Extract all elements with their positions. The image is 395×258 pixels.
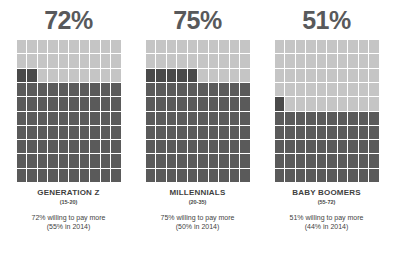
waffle-cell bbox=[219, 40, 229, 53]
waffle-cell bbox=[27, 69, 37, 82]
waffle-cell bbox=[275, 154, 285, 167]
waffle-chart-millennials bbox=[146, 40, 250, 182]
waffle-cell bbox=[146, 54, 156, 67]
waffle-cell bbox=[327, 54, 337, 67]
waffle-cell bbox=[348, 140, 358, 153]
waffle-cell bbox=[27, 97, 37, 110]
waffle-cell bbox=[275, 169, 285, 182]
waffle-cell bbox=[80, 83, 90, 96]
waffle-cell bbox=[327, 97, 337, 110]
waffle-cell bbox=[317, 112, 327, 125]
waffle-cell bbox=[146, 97, 156, 110]
waffle-cell bbox=[296, 169, 306, 182]
waffle-cell bbox=[167, 126, 177, 139]
waffle-cell bbox=[38, 97, 48, 110]
waffle-cell bbox=[177, 83, 187, 96]
waffle-cell bbox=[59, 126, 69, 139]
waffle-cell bbox=[156, 140, 166, 153]
waffle-cell bbox=[69, 112, 79, 125]
waffle-cell bbox=[59, 140, 69, 153]
waffle-cell bbox=[327, 126, 337, 139]
waffle-cell bbox=[359, 140, 369, 153]
waffle-cell bbox=[146, 83, 156, 96]
waffle-cell bbox=[209, 154, 219, 167]
waffle-cell bbox=[369, 112, 379, 125]
waffle-cell bbox=[285, 154, 295, 167]
waffle-cell bbox=[369, 169, 379, 182]
waffle-cell bbox=[17, 40, 27, 53]
waffle-cell bbox=[59, 54, 69, 67]
waffle-cell bbox=[240, 154, 250, 167]
waffle-cell bbox=[306, 140, 316, 153]
waffle-cell bbox=[306, 40, 316, 53]
waffle-cell bbox=[198, 154, 208, 167]
waffle-cell bbox=[348, 83, 358, 96]
waffle-cell bbox=[90, 54, 100, 67]
waffle-cell bbox=[359, 154, 369, 167]
waffle-cell bbox=[48, 169, 58, 182]
waffle-cell bbox=[369, 97, 379, 110]
waffle-cell bbox=[101, 69, 111, 82]
waffle-cell bbox=[230, 112, 240, 125]
waffle-cell bbox=[48, 40, 58, 53]
waffle-cell bbox=[48, 154, 58, 167]
labels-millennials: MILLENNIALS (20-35) 75% willing to pay m… bbox=[133, 189, 262, 232]
waffle-cell bbox=[59, 169, 69, 182]
waffle-chart-generation-z bbox=[17, 40, 121, 182]
waffle-cell bbox=[146, 154, 156, 167]
waffle-cell bbox=[327, 140, 337, 153]
waffle-cell bbox=[167, 169, 177, 182]
waffle-cell bbox=[306, 112, 316, 125]
waffle-cell bbox=[80, 54, 90, 67]
waffle-cell bbox=[209, 126, 219, 139]
stat-main-baby-boomers: 51% willing to pay more bbox=[262, 213, 391, 222]
waffle-cell bbox=[17, 154, 27, 167]
waffle-cell bbox=[101, 97, 111, 110]
waffle-cell bbox=[17, 169, 27, 182]
waffle-cell bbox=[306, 169, 316, 182]
waffle-cell bbox=[146, 169, 156, 182]
waffle-cell bbox=[296, 154, 306, 167]
waffle-cell bbox=[111, 83, 121, 96]
waffle-cell bbox=[230, 54, 240, 67]
panel-generation-z: 72% GENERATION Z (15-20) 72% willing to … bbox=[4, 0, 133, 232]
waffle-cell bbox=[90, 83, 100, 96]
waffle-cell bbox=[338, 40, 348, 53]
waffle-cell bbox=[219, 54, 229, 67]
waffle-cell bbox=[90, 97, 100, 110]
waffle-cell bbox=[230, 169, 240, 182]
waffle-cell bbox=[338, 97, 348, 110]
waffle-cell bbox=[101, 140, 111, 153]
waffle-chart-baby-boomers bbox=[275, 40, 379, 182]
waffle-cell bbox=[38, 69, 48, 82]
waffle-cell bbox=[317, 126, 327, 139]
waffle-cell bbox=[285, 40, 295, 53]
waffle-cell bbox=[359, 83, 369, 96]
waffle-cell bbox=[317, 69, 327, 82]
waffle-cell bbox=[338, 140, 348, 153]
stat-prior-baby-boomers: (44% in 2014) bbox=[262, 222, 391, 231]
waffle-cell bbox=[348, 97, 358, 110]
age-range-generation-z: (15-20) bbox=[4, 199, 133, 206]
waffle-cell bbox=[167, 54, 177, 67]
waffle-cell bbox=[80, 140, 90, 153]
waffle-cell bbox=[27, 140, 37, 153]
waffle-cell bbox=[27, 112, 37, 125]
waffle-cell bbox=[80, 112, 90, 125]
waffle-cell bbox=[69, 54, 79, 67]
waffle-cell bbox=[327, 69, 337, 82]
waffle-cell bbox=[38, 126, 48, 139]
waffle-cell bbox=[90, 126, 100, 139]
waffle-cell bbox=[359, 112, 369, 125]
waffle-cell bbox=[38, 112, 48, 125]
waffle-cell bbox=[101, 126, 111, 139]
waffle-cell bbox=[27, 83, 37, 96]
waffle-cell bbox=[101, 169, 111, 182]
waffle-cell bbox=[111, 140, 121, 153]
waffle-cell bbox=[177, 169, 187, 182]
waffle-cell bbox=[111, 40, 121, 53]
waffle-cell bbox=[209, 169, 219, 182]
waffle-cell bbox=[348, 40, 358, 53]
waffle-cell bbox=[209, 83, 219, 96]
waffle-cell bbox=[59, 97, 69, 110]
